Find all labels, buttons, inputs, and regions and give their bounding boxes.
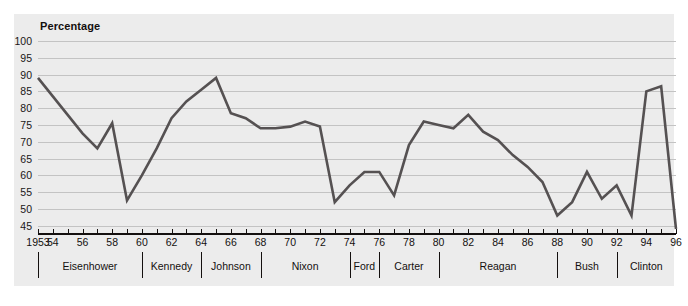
x-tick <box>364 229 365 234</box>
x-tick <box>53 229 54 234</box>
x-tick <box>557 229 558 234</box>
footnote <box>14 299 674 306</box>
term-label-clinton: Clinton <box>630 260 663 272</box>
x-tick <box>646 229 647 234</box>
x-tick <box>424 229 425 234</box>
term-label-bush: Bush <box>575 260 599 272</box>
x-tick <box>572 229 573 234</box>
y-tick-label: 90 <box>8 70 32 80</box>
x-tick <box>483 229 484 234</box>
x-tick-label: 92 <box>611 236 623 248</box>
x-tick <box>335 229 336 234</box>
term-divider <box>557 252 558 278</box>
x-tick <box>543 229 544 234</box>
x-tick <box>231 229 232 234</box>
plot-area <box>38 41 676 229</box>
x-tick <box>112 229 113 234</box>
x-tick <box>394 229 395 234</box>
x-tick-label: 90 <box>581 236 593 248</box>
term-label-carter: Carter <box>394 260 423 272</box>
x-tick <box>379 229 380 234</box>
x-tick <box>661 229 662 234</box>
y-tick-label: 70 <box>8 137 32 147</box>
x-tick <box>201 229 202 234</box>
term-label-eisenhower: Eisenhower <box>62 260 117 272</box>
x-tick-label: 66 <box>225 236 237 248</box>
x-tick-label: 74 <box>344 236 356 248</box>
y-axis-labels: 4550556065707580859095100 <box>6 41 32 229</box>
x-tick-label: 54 <box>47 236 59 248</box>
president-term-bands: EisenhowerKennedyJohnsonNixonFordCarterR… <box>0 252 688 282</box>
x-tick <box>409 229 410 234</box>
y-tick-label: 55 <box>8 187 32 197</box>
x-tick <box>528 229 529 234</box>
term-label-nixon: Nixon <box>292 260 319 272</box>
y-tick-label: 45 <box>8 221 32 231</box>
term-divider <box>617 252 618 278</box>
x-tick <box>216 229 217 234</box>
y-tick-label: 60 <box>8 170 32 180</box>
x-tick-label: 84 <box>492 236 504 248</box>
x-tick-label: 76 <box>373 236 385 248</box>
y-tick-label: 95 <box>8 53 32 63</box>
x-tick-label: 94 <box>640 236 652 248</box>
term-label-kennedy: Kennedy <box>151 260 192 272</box>
x-tick-label: 86 <box>522 236 534 248</box>
x-axis-tick-labels: 1953545658606264666870727476788082848688… <box>0 236 688 250</box>
term-divider <box>201 252 202 278</box>
x-tick-label: 82 <box>462 236 474 248</box>
x-tick <box>275 229 276 234</box>
x-tick-label: 60 <box>136 236 148 248</box>
x-tick <box>602 229 603 234</box>
x-tick <box>38 229 39 234</box>
x-tick <box>83 229 84 234</box>
approval-line <box>38 78 676 229</box>
x-tick <box>97 229 98 234</box>
x-tick <box>350 229 351 234</box>
x-tick <box>305 229 306 234</box>
term-label-johnson: Johnson <box>211 260 251 272</box>
x-tick-label: 70 <box>284 236 296 248</box>
x-tick-label: 88 <box>551 236 563 248</box>
term-divider <box>38 252 39 278</box>
x-tick <box>439 229 440 234</box>
x-tick <box>172 229 173 234</box>
x-tick-label: 96 <box>670 236 682 248</box>
x-tick <box>68 229 69 234</box>
term-divider <box>350 252 351 278</box>
x-tick <box>513 229 514 234</box>
x-tick <box>186 229 187 234</box>
x-tick <box>632 229 633 234</box>
x-tick-label: 64 <box>195 236 207 248</box>
term-divider <box>142 252 143 278</box>
x-axis-ticks <box>38 229 676 235</box>
data-line-series <box>38 41 676 229</box>
y-tick-label: 65 <box>8 154 32 164</box>
x-tick <box>157 229 158 234</box>
term-label-reagan: Reagan <box>480 260 517 272</box>
y-tick-label: 75 <box>8 120 32 130</box>
x-tick <box>261 229 262 234</box>
term-divider <box>261 252 262 278</box>
term-divider <box>439 252 440 278</box>
x-tick-label: 72 <box>314 236 326 248</box>
x-tick <box>320 229 321 234</box>
x-tick <box>468 229 469 234</box>
y-tick-label: 50 <box>8 204 32 214</box>
term-divider <box>379 252 380 278</box>
x-tick-label: 62 <box>166 236 178 248</box>
chart-figure: Percentage 4550556065707580859095100 195… <box>0 0 688 306</box>
x-tick <box>127 229 128 234</box>
x-tick <box>142 229 143 234</box>
x-tick-label: 56 <box>77 236 89 248</box>
y-tick-label: 100 <box>8 36 32 46</box>
y-tick-label: 85 <box>8 86 32 96</box>
x-tick <box>453 229 454 234</box>
chart-title: Percentage <box>40 20 100 32</box>
term-label-ford: Ford <box>354 260 376 272</box>
x-tick-label: 80 <box>433 236 445 248</box>
x-tick-label: 58 <box>106 236 118 248</box>
x-tick <box>587 229 588 234</box>
y-tick-label: 80 <box>8 103 32 113</box>
x-tick <box>676 229 677 234</box>
